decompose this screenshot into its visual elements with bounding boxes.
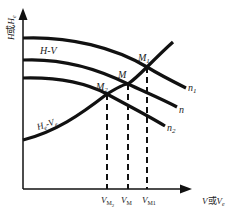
tick-label-vm2: VM2 <box>101 195 115 208</box>
speed-label-n: n <box>179 104 184 115</box>
pump-curve-diagram: H或He V或Ve H-V He-Ve n1 n n2 M1 M M2 VM2 … <box>0 0 251 215</box>
y-axis-label: H或He <box>5 15 17 41</box>
point-label-m: M <box>117 69 127 80</box>
x-axis-label: V或Ve <box>202 195 225 207</box>
speed-label-n2: n2 <box>167 122 176 135</box>
tick-label-vm: VM <box>121 195 133 206</box>
speed-label-n1: n1 <box>188 82 197 95</box>
pump-curve-label: H-V <box>39 45 59 56</box>
tick-label-vm1: VM1 <box>142 195 156 206</box>
